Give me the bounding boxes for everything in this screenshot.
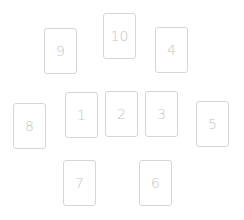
card-slot-8[interactable]: 8 — [13, 103, 46, 149]
card-number: 6 — [151, 176, 160, 190]
card-slot-5[interactable]: 5 — [196, 101, 229, 147]
card-number: 9 — [56, 44, 65, 58]
card-slot-10[interactable]: 10 — [103, 13, 136, 59]
card-slot-9[interactable]: 9 — [44, 28, 77, 74]
card-number: 3 — [157, 107, 166, 121]
card-number: 4 — [167, 43, 176, 57]
card-slot-6[interactable]: 6 — [139, 160, 172, 206]
card-number: 1 — [77, 108, 86, 122]
card-slot-7[interactable]: 7 — [63, 160, 96, 206]
card-number: 2 — [117, 107, 126, 121]
card-number: 10 — [111, 29, 129, 43]
card-number: 8 — [25, 119, 34, 133]
card-number: 7 — [75, 176, 84, 190]
card-slot-4[interactable]: 4 — [155, 27, 188, 73]
card-number: 5 — [208, 117, 217, 131]
card-slot-3[interactable]: 3 — [145, 91, 178, 137]
card-slot-2[interactable]: 2 — [105, 91, 138, 137]
card-slot-1[interactable]: 1 — [65, 92, 98, 138]
